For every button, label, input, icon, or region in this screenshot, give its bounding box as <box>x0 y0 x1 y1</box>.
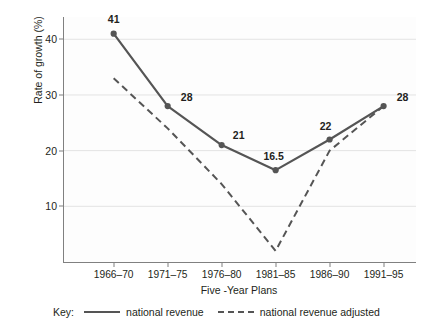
y-tick-mark <box>59 150 64 151</box>
data-point-marker <box>273 167 279 173</box>
y-axis-title: Rate of growth (%) <box>28 0 48 145</box>
x-tick-mark <box>383 262 384 267</box>
x-tick-label: 1986–90 <box>310 269 350 280</box>
data-point-marker <box>111 31 117 37</box>
y-tick-mark <box>59 39 64 40</box>
data-point-marker <box>327 136 333 142</box>
x-tick-mark <box>113 262 114 267</box>
dashed-line-path <box>114 78 384 251</box>
x-tick-label: 1991–95 <box>364 269 404 280</box>
x-tick-label: 1981–85 <box>256 269 296 280</box>
legend-key-label: Key: <box>53 306 74 318</box>
line-chart-figure: Rate of growth (%) 40302010 1966–701971–… <box>0 0 433 330</box>
data-point-label: 28 <box>181 91 193 103</box>
series-national-revenue-adjusted <box>114 78 384 251</box>
x-tick-label: 1976–80 <box>202 269 242 280</box>
data-point-label: 21 <box>233 129 245 141</box>
data-point-marker <box>381 103 387 109</box>
legend-dashed-line-swatch <box>218 311 254 313</box>
x-axis-title: Five -Year Plans <box>63 284 415 296</box>
data-point-label: 22 <box>320 120 332 132</box>
data-point-marker <box>219 142 225 148</box>
legend-solid-line-swatch <box>84 311 120 313</box>
x-tick-mark <box>329 262 330 267</box>
y-tick-mark <box>59 206 64 207</box>
legend-item-national-revenue: national revenue <box>84 306 204 318</box>
data-point-label: 41 <box>108 13 120 25</box>
data-point-label: 16.5 <box>263 150 283 162</box>
series-national-revenue <box>111 31 387 174</box>
data-point-label: 28 <box>397 91 409 103</box>
plot-area: 40302010 1966–701971–751976–801981–85198… <box>63 17 416 263</box>
legend-item-national-revenue-adjusted: national revenue adjusted <box>218 306 380 318</box>
y-tick-mark <box>59 94 64 95</box>
solid-line-path <box>114 34 384 170</box>
x-tick-label: 1966–70 <box>94 269 134 280</box>
chart-legend: Key: national revenue national revenue a… <box>0 306 433 318</box>
x-tick-mark <box>275 262 276 267</box>
x-tick-mark <box>167 262 168 267</box>
legend-label-national-revenue-adjusted: national revenue adjusted <box>260 306 380 318</box>
legend-label-national-revenue: national revenue <box>126 306 204 318</box>
x-tick-mark <box>221 262 222 267</box>
data-point-markers <box>111 31 387 174</box>
x-tick-label: 1971–75 <box>148 269 188 280</box>
data-point-marker <box>165 103 171 109</box>
